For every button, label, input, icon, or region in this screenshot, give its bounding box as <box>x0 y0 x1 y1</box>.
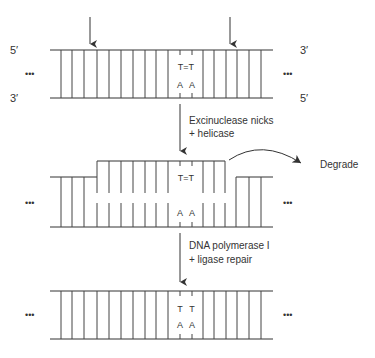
panel-repaired-dna: ••• ••• T T A A <box>25 291 292 339</box>
three-prime-label: 3′ <box>10 92 18 104</box>
degrade-arrow-icon <box>229 150 301 163</box>
right-rungs <box>236 177 261 227</box>
bottom-stubs <box>97 203 225 227</box>
adenine-label: A <box>177 80 183 90</box>
adenine-label: A <box>177 208 183 218</box>
left-rungs <box>61 177 84 227</box>
step-label-line1: Excinuclease nicks <box>189 115 273 126</box>
ellipsis-left: ••• <box>25 69 34 79</box>
step-label-line1: DNA polymerase I <box>189 240 270 251</box>
thymine-label: T <box>177 304 183 314</box>
thymine-dimer-label: T=T <box>178 62 195 72</box>
three-prime-label-right: 3′ <box>300 44 308 56</box>
thymine-label: T <box>189 304 195 314</box>
step-label-line2: + helicase <box>189 128 235 139</box>
adenine-label: A <box>189 320 195 330</box>
step-excision: Excinuclease nicks + helicase <box>180 104 273 151</box>
five-prime-label-right: 5′ <box>300 92 308 104</box>
ellipsis-left: ••• <box>25 198 34 208</box>
adenine-label: A <box>189 208 195 218</box>
thymine-dimer-label: T=T <box>178 173 195 183</box>
panel-damaged-dna: 5′ 3′ 3′ 5′ ••• ••• T=T A A <box>10 17 308 104</box>
step-label-line2: + ligase repair <box>189 254 253 265</box>
ellipsis-right: ••• <box>283 69 292 79</box>
adenine-label: A <box>177 320 183 330</box>
base-pair-rungs <box>61 291 261 339</box>
panel-excised-dna: ••• ••• T=T A A Degrade <box>25 150 359 227</box>
fragment-stubs <box>97 161 225 193</box>
ellipsis-right: ••• <box>283 198 292 208</box>
adenine-label: A <box>189 80 195 90</box>
five-prime-label: 5′ <box>10 44 18 56</box>
excision-repair-diagram: 5′ 3′ 3′ 5′ ••• ••• T=T A A Excinuclease… <box>0 0 375 358</box>
degrade-label: Degrade <box>320 159 359 170</box>
step-repair: DNA polymerase I + ligase repair <box>180 233 270 282</box>
base-pair-rungs <box>61 50 261 98</box>
ellipsis-right: ••• <box>283 310 292 320</box>
ellipsis-left: ••• <box>25 310 34 320</box>
